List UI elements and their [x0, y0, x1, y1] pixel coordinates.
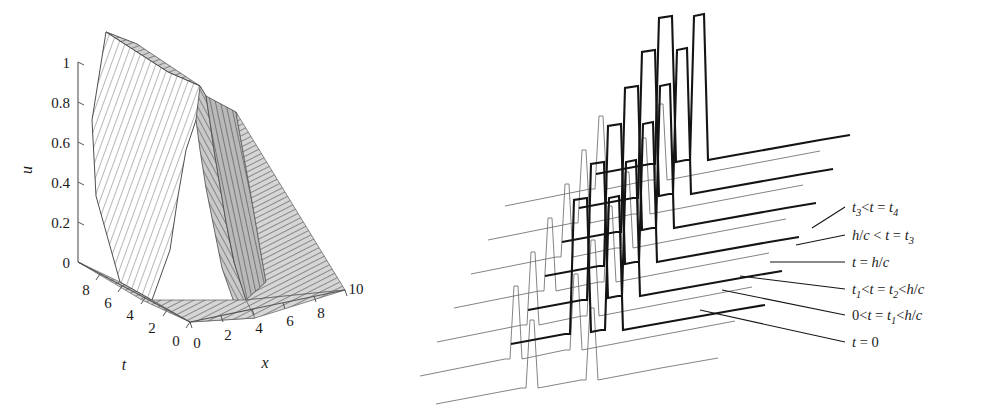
surface-plot-svg: 1 0.8 0.6 0.4 0.2 0 u 8 6 4 2 0 [0, 0, 400, 412]
z-axis-label: u [18, 166, 35, 174]
waterfall-plot-panel: t3<t = t4 h/c < t = t3 t = h/c t1<t = t2… [400, 0, 990, 412]
t-tick-4: 4 [126, 307, 134, 323]
waterfall-plot-svg: t3<t = t4 h/c < t = t3 t = h/c t1<t = t2… [400, 0, 990, 412]
x-tick-4: 4 [255, 320, 263, 336]
z-tick-0p2: 0.2 [51, 215, 70, 231]
label-t-hc: t = h/c [852, 254, 890, 270]
z-tick-0p6: 0.6 [51, 135, 70, 151]
t-tick-8: 8 [82, 282, 90, 298]
z-tick-0p8: 0.8 [51, 95, 70, 111]
background-curve-6 [420, 274, 735, 376]
z-tick-1: 1 [63, 55, 71, 71]
waterfall-main-curves [511, 14, 850, 344]
x-tick-2: 2 [224, 327, 232, 343]
label-t1-t2-hc: t1<t = t2<h/c [852, 281, 925, 300]
waterfall-curve-labels: t3<t = t4 h/c < t = t3 t = h/c t1<t = t2… [852, 199, 925, 350]
figure-root: 1 0.8 0.6 0.4 0.2 0 u 8 6 4 2 0 [0, 0, 990, 412]
label-t3-t4: t3<t = t4 [852, 199, 899, 218]
leader-t3-t4 [812, 207, 845, 228]
x-tick-8: 8 [317, 305, 325, 321]
t-axis-label: t [122, 356, 127, 373]
z-tick-0p4: 0.4 [51, 175, 70, 191]
t-tick-2: 2 [148, 320, 156, 336]
x-axis-label: x [260, 354, 268, 371]
background-curve-7 [436, 308, 718, 404]
t-tick-0: 0 [172, 333, 180, 349]
waterfall-leader-lines [700, 207, 845, 342]
surface-plot-panel: 1 0.8 0.6 0.4 0.2 0 u 8 6 4 2 0 [0, 0, 400, 412]
z-axis-ticks [78, 62, 84, 265]
z-tick-0: 0 [63, 255, 71, 271]
label-t-0: t = 0 [852, 334, 879, 350]
surface-mesh-face [92, 32, 206, 300]
t-tick-6: 6 [104, 295, 112, 311]
leader-hc-t3 [796, 235, 845, 245]
x-tick-6: 6 [286, 313, 294, 329]
label-hc-t3: h/c < t = t3 [852, 227, 914, 246]
label-0-t1-hc: 0<t = t1<h/c [852, 307, 923, 326]
leader-0-t1-hc [722, 290, 845, 315]
x-tick-0: 0 [193, 335, 201, 351]
curve-t3-t4 [596, 14, 850, 174]
leader-t-0 [700, 310, 845, 342]
leader-t1-t2-hc [740, 276, 845, 289]
z-axis-tick-labels: 1 0.8 0.6 0.4 0.2 0 [51, 55, 70, 271]
x-tick-10: 10 [349, 281, 364, 297]
